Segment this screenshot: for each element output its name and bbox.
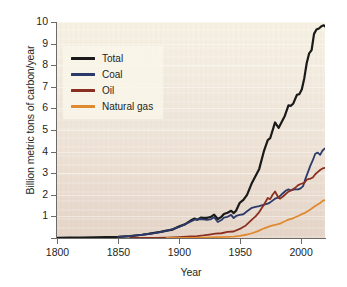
y-tick-label: 10 — [36, 15, 48, 27]
y-tick: 1 — [51, 216, 56, 217]
y-tick-label: 4 — [42, 145, 48, 157]
y-tick: 7 — [51, 87, 56, 88]
y-axis-spine — [56, 22, 57, 239]
x-tick: 1950 — [240, 239, 241, 244]
y-tick-label: 8 — [42, 58, 48, 70]
y-tick: 9 — [51, 44, 56, 45]
legend-swatch-icon — [71, 105, 95, 108]
legend-item-natural-gas: Natural gas — [71, 100, 153, 113]
chart-legend: TotalCoalOilNatural gas — [63, 46, 163, 119]
x-tick: 1850 — [118, 239, 119, 244]
x-tick-label: 1850 — [107, 246, 130, 258]
x-tick-label: 2000 — [289, 246, 312, 258]
y-tick-baseline — [51, 238, 56, 239]
x-tick: 1800 — [57, 239, 58, 244]
y-tick: 8 — [51, 65, 56, 66]
y-tick-label: 6 — [42, 101, 48, 113]
legend-item-total: Total — [71, 52, 153, 65]
legend-label: Oil — [102, 84, 114, 97]
y-tick: 3 — [51, 173, 56, 174]
legend-item-oil: Oil — [71, 84, 153, 97]
chart-figure: Billion metric tons of carbon/year 12345… — [0, 0, 347, 287]
y-tick-label: 3 — [42, 166, 48, 178]
legend-label: Coal — [102, 68, 123, 81]
y-tick: 2 — [51, 195, 56, 196]
y-tick-label: 5 — [42, 123, 48, 135]
y-axis-title: Billion metric tons of carbon/year — [24, 5, 36, 235]
y-tick: 10 — [51, 22, 56, 23]
y-tick: 5 — [51, 130, 56, 131]
x-tick-label: 1900 — [168, 246, 191, 258]
x-tick: 1900 — [179, 239, 180, 244]
series-line-coal — [118, 148, 325, 237]
legend-label: Natural gas — [102, 100, 153, 113]
legend-swatch-icon — [71, 57, 95, 60]
x-axis-title: Year — [57, 266, 325, 278]
y-tick-label: 9 — [42, 37, 48, 49]
y-tick-label: 7 — [42, 80, 48, 92]
y-tick: 4 — [51, 152, 56, 153]
y-tick-label: 2 — [42, 188, 48, 200]
x-axis-spine — [56, 238, 326, 239]
x-tick-label: 1950 — [229, 246, 252, 258]
x-tick-label: 1800 — [46, 246, 69, 258]
legend-label: Total — [102, 52, 123, 65]
x-tick: 2000 — [301, 239, 302, 244]
series-line-natural-gas — [167, 200, 325, 238]
legend-item-coal: Coal — [71, 68, 153, 81]
series-line-oil — [130, 168, 325, 238]
y-tick: 6 — [51, 108, 56, 109]
legend-swatch-icon — [71, 73, 95, 76]
y-tick-label: 1 — [42, 209, 48, 221]
legend-swatch-icon — [71, 89, 95, 92]
